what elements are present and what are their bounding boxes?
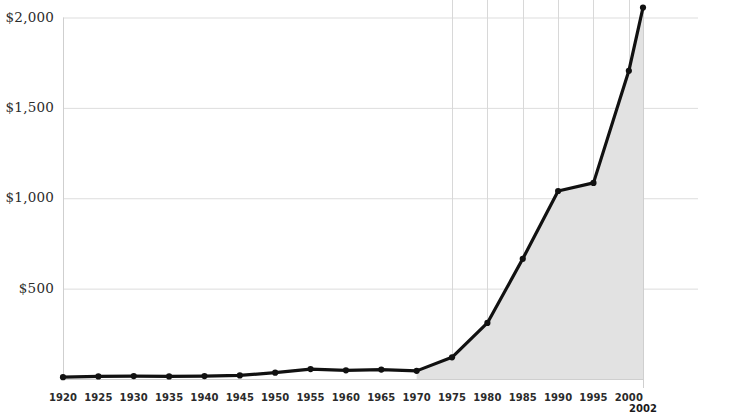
x-axis-tick-label: 1920 [43,392,83,403]
data-point-marker [166,373,172,379]
data-point-marker [201,373,207,379]
data-point-marker [60,374,66,380]
x-axis-tick-label: 1990 [538,392,578,403]
x-axis-tick-label: 1950 [255,392,295,403]
data-point-marker [449,354,455,360]
y-axis-tick-label: $1,500 [0,99,54,115]
y-axis-tick-label: $1,000 [0,189,54,205]
x-axis-tick-label: 1960 [326,392,366,403]
x-axis-tick-label: 1995 [573,392,613,403]
x-axis-tick-label: 2000 [609,392,649,403]
data-point-marker [555,188,561,194]
x-axis-tick-label: 1985 [503,392,543,403]
data-point-marker [484,320,490,326]
line-chart-canvas [0,0,749,417]
data-point-marker [307,366,313,372]
x-axis-tick-label: 1940 [184,392,224,403]
x-axis-tick-label: 1965 [361,392,401,403]
x-axis-tick-label: 1925 [78,392,118,403]
x-axis-tick-label: 1935 [149,392,189,403]
data-point-marker [414,368,420,374]
x-axis-tick-label: 1945 [220,392,260,403]
chart-container: $500$1,000$1,500$2,000 19201925193019351… [0,0,749,417]
x-axis-end-year-label: 2002 [623,403,663,414]
data-point-marker [272,370,278,376]
data-point-marker [95,373,101,379]
area-fill [417,8,643,379]
x-axis-tick-label: 1955 [291,392,331,403]
y-axis-tick-label: $2,000 [0,9,54,25]
x-axis-tick-label: 1970 [397,392,437,403]
data-point-marker [640,4,646,10]
data-point-marker [520,256,526,262]
x-axis-tick-label: 1975 [432,392,472,403]
data-point-marker [590,180,596,186]
data-point-marker [378,367,384,373]
data-point-marker [343,367,349,373]
data-point-marker [131,373,137,379]
data-point-marker [626,68,632,74]
data-point-marker [237,372,243,378]
x-axis-tick-label: 1930 [114,392,154,403]
y-axis-tick-label: $500 [0,280,54,296]
x-axis-tick-label: 1980 [467,392,507,403]
